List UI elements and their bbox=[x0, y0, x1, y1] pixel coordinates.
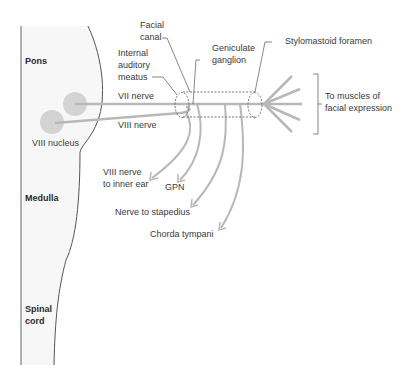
label-inner-ear-2: to inner ear bbox=[103, 179, 149, 190]
label-iam-2: auditory bbox=[118, 60, 150, 71]
label-chorda: Chorda tympani bbox=[150, 229, 214, 240]
label-pons: Pons bbox=[25, 56, 47, 67]
label-facial-canal-1: Facial bbox=[140, 20, 164, 31]
label-viii-nerve: VIII nerve bbox=[118, 120, 157, 131]
facial-muscle-branches bbox=[264, 76, 302, 132]
chorda-branch bbox=[221, 104, 243, 228]
label-iam-3: meatus bbox=[118, 72, 148, 83]
label-medulla: Medulla bbox=[25, 193, 59, 204]
label-stylomastoid: Stylomastoid foramen bbox=[285, 36, 372, 47]
label-stapedius: Nerve to stapedius bbox=[115, 207, 190, 218]
arrowheads bbox=[150, 172, 226, 230]
label-spinal-1: Spinal bbox=[25, 304, 52, 315]
label-gpn: GPN bbox=[165, 182, 185, 193]
label-facial-canal-2: canal bbox=[140, 32, 162, 43]
label-spinal-2: cord bbox=[25, 316, 45, 327]
label-iam-1: Internal bbox=[118, 48, 148, 59]
label-geniculate-1: Geniculate bbox=[212, 43, 255, 54]
label-muscles-1: To muscles of bbox=[325, 91, 380, 102]
viii-inner-ear-branch bbox=[152, 112, 190, 178]
label-inner-ear-1: VIII nerve bbox=[103, 167, 142, 178]
stapedius-branch bbox=[193, 104, 226, 205]
facial-nerve-diagram bbox=[0, 0, 406, 387]
label-vii-nerve: VII nerve bbox=[118, 91, 154, 102]
gpn-branch bbox=[180, 104, 201, 180]
label-muscles-2: facial expression bbox=[325, 103, 392, 114]
label-geniculate-2: ganglion bbox=[212, 55, 246, 66]
label-viii-nucleus: VIII nucleus bbox=[32, 138, 79, 149]
